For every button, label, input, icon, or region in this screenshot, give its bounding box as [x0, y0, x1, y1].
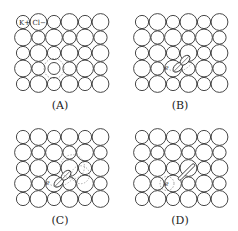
k-ion: [16, 192, 29, 205]
k-ion: [151, 146, 164, 159]
k-ion: [135, 77, 148, 90]
k-ion: [78, 15, 91, 28]
k-ion: [32, 146, 45, 159]
cl-ion: [211, 45, 228, 62]
k-ion: [78, 192, 91, 205]
k-ion: [47, 192, 60, 205]
k-ion: [213, 62, 226, 75]
cl-ion: [149, 76, 166, 93]
cl-ion: [196, 60, 213, 77]
cl-ion: [134, 175, 151, 192]
cl-ion-label: Cl−: [33, 19, 47, 27]
k-ion: [135, 46, 148, 59]
cl-ion: [149, 14, 166, 31]
cl-ion: [15, 60, 32, 77]
k-ion: [32, 62, 45, 75]
k-ion: [213, 31, 226, 44]
panel-label-a: (A): [30, 99, 90, 112]
k-ion: [197, 46, 210, 59]
k-ion: [63, 146, 76, 159]
cl-ion: [30, 76, 47, 93]
cl-ion: [211, 14, 228, 31]
k-ion: [213, 146, 226, 159]
cl-ion: [165, 29, 182, 46]
k-ion: [197, 161, 210, 174]
cl-ion: [46, 144, 63, 161]
k-ion: [16, 77, 29, 90]
k-ion: [63, 62, 76, 75]
k-ion: [94, 62, 107, 75]
cl-ion: [92, 129, 109, 146]
k-ion: [94, 31, 107, 44]
panel-c: e (C): [0, 115, 119, 230]
cl-ion: [30, 45, 47, 62]
k-ion: [166, 77, 179, 90]
k-ion: [135, 15, 148, 28]
k-ion: [94, 146, 107, 159]
k-ion: [197, 77, 210, 90]
lattice-a: K+Cl−: [0, 0, 119, 115]
panel-d: e (D): [119, 115, 238, 230]
k-ion: [78, 77, 91, 90]
k-ion: [135, 161, 148, 174]
k-ion: [78, 46, 91, 59]
cl-ion: [149, 45, 166, 62]
k-ion: [47, 46, 60, 59]
cl-ion: [180, 191, 197, 208]
k-ion-label: K+: [19, 19, 30, 27]
k-ion: [135, 192, 148, 205]
cl-ion: [77, 29, 94, 46]
k-ion: [78, 161, 91, 174]
k-ion: [182, 31, 195, 44]
lattice-b: e: [119, 0, 238, 115]
cl-ion: [134, 29, 151, 46]
cl-ion: [211, 129, 228, 146]
cl-ion: [165, 144, 182, 161]
electron-label: e: [165, 64, 169, 72]
k-ion: [182, 146, 195, 159]
cl-ion: [61, 14, 78, 31]
cl-ion: [30, 160, 47, 177]
panel-b: e (B): [119, 0, 238, 115]
k-ion: [166, 46, 179, 59]
k-ion: [63, 31, 76, 44]
k-ion: [213, 177, 226, 190]
k-ion: [182, 177, 195, 190]
cl-ion: [211, 160, 228, 177]
cl-ion: [61, 191, 78, 208]
cl-ion: [196, 175, 213, 192]
cl-ion: [15, 144, 32, 161]
k-ion: [166, 161, 179, 174]
cl-ion: [46, 29, 63, 46]
k-ion: [166, 15, 179, 28]
cl-ion: [149, 160, 166, 177]
electron-label: e: [165, 180, 169, 188]
k-ion: [166, 192, 179, 205]
k-ion: [197, 192, 210, 205]
k-ion: [197, 15, 210, 28]
cl-ion: [134, 60, 151, 77]
cl-ion: [149, 129, 166, 146]
k-ion: [94, 177, 107, 190]
cl-ion: [77, 60, 94, 77]
k-ion: [32, 177, 45, 190]
k-ion: [166, 130, 179, 143]
k-ion: [151, 62, 164, 75]
k-ion: [32, 31, 45, 44]
k-ion: [47, 130, 60, 143]
cl-ion: [92, 160, 109, 177]
k-ion: [135, 130, 148, 143]
cl-ion: [180, 76, 197, 93]
k-ion: [197, 130, 210, 143]
k-ion: [78, 130, 91, 143]
k-ion: [16, 130, 29, 143]
cl-ion: [180, 129, 197, 146]
panel-label-d: (D): [150, 214, 210, 227]
cl-ion: [211, 76, 228, 93]
cl-ion: [15, 29, 32, 46]
cl-ion: [196, 144, 213, 161]
cl-ion: [134, 144, 151, 161]
k-ion: [47, 77, 60, 90]
k-ion: [47, 161, 60, 174]
k-ion: [16, 161, 29, 174]
